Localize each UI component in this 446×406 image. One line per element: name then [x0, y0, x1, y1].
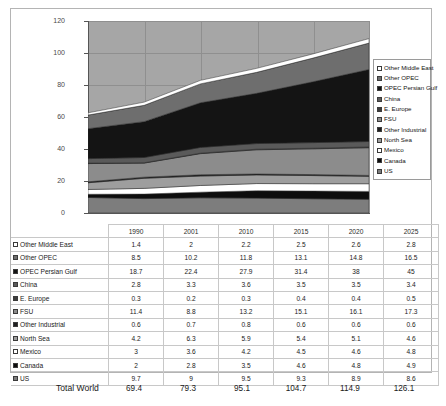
table-cell: 4.8	[384, 345, 439, 358]
table-cell: 0.8	[219, 318, 274, 331]
series-swatch-icon	[13, 282, 18, 287]
legend-item: FSU	[377, 114, 428, 124]
legend-item-label: FSU	[384, 116, 396, 123]
table-cell: 2.6	[329, 238, 384, 251]
table-row-label-cell: North Sea	[11, 332, 109, 345]
table-row-label: Other OPEC	[20, 254, 57, 261]
legend-swatch-icon	[377, 117, 382, 122]
total-world-value: 104.7	[269, 384, 323, 393]
table-row-label-cell: Canada	[11, 358, 109, 371]
legend-item: Other OPEC	[377, 73, 428, 83]
total-world-value: 69.4	[107, 384, 161, 393]
table-cell: 16.1	[329, 305, 384, 318]
table-cell: 4.2	[219, 345, 274, 358]
table-cell: 0.4	[329, 291, 384, 304]
table-cell: 16.5	[384, 251, 439, 264]
table-cell: 18.7	[109, 265, 164, 278]
table-cell: 3.3	[164, 278, 219, 291]
table-row-label: Mexico	[20, 348, 41, 355]
table-cell: 3.6	[219, 278, 274, 291]
table-row-label-cell: Other Middle East	[11, 238, 109, 251]
table-column-header: 2001	[164, 225, 219, 238]
table-cell: 0.5	[384, 291, 439, 304]
table-cell: 4.6	[329, 345, 384, 358]
table-corner-cell	[11, 225, 109, 238]
table-row-label: Other Middle East	[20, 241, 73, 248]
legend-swatch-icon	[377, 97, 382, 102]
table-cell: 13.2	[219, 305, 274, 318]
table-cell: 8.8	[164, 305, 219, 318]
table-column-header: 2010	[219, 225, 274, 238]
table-cell: 4.8	[329, 358, 384, 371]
legend-swatch-icon	[377, 148, 382, 153]
total-world-value: 114.9	[323, 384, 377, 393]
y-axis-tick-label: 40	[25, 145, 65, 152]
table-cell: 0.2	[164, 291, 219, 304]
legend-swatch-icon	[377, 127, 382, 132]
table-cell: 0.4	[274, 291, 329, 304]
legend-swatch-icon	[377, 86, 382, 91]
legend-item-label: Other OPEC	[384, 75, 419, 82]
x-gridline	[369, 21, 370, 213]
table-body: Other Middle East1.422.22.52.62.8Other O…	[11, 238, 439, 385]
table-cell: 14.8	[329, 251, 384, 264]
table-row-label-cell: FSU	[11, 305, 109, 318]
table-column-header: 2015	[274, 225, 329, 238]
y-axis-tick-label: 100	[25, 49, 65, 56]
table-row: OPEC Persian Gulf18.722.427.931.43845	[11, 265, 439, 278]
table-cell: 4.6	[274, 358, 329, 371]
stacked-area-chart: 020406080100120	[11, 9, 431, 224]
table-row: Other OPEC8.510.211.813.114.816.5	[11, 251, 439, 264]
table-cell: 31.4	[274, 265, 329, 278]
table-cell: 4.6	[384, 332, 439, 345]
table-row-label: FSU	[20, 308, 33, 315]
total-world-row: Total World 69.479.395.1104.7114.9126.1	[10, 378, 432, 398]
table-cell: 15.1	[274, 305, 329, 318]
legend-item: Canada	[377, 156, 428, 166]
table-cell: 3.4	[384, 278, 439, 291]
table-column-header: 1990	[109, 225, 164, 238]
table-cell: 3.5	[219, 358, 274, 371]
series-swatch-icon	[13, 309, 18, 314]
legend-item: E. Europe	[377, 104, 428, 114]
area-series-layer	[88, 21, 369, 213]
series-swatch-icon	[13, 255, 18, 260]
legend-item: US	[377, 166, 428, 176]
table-row-label: OPEC Persian Gulf	[20, 268, 77, 275]
series-swatch-icon	[13, 296, 18, 301]
table-cell: 0.3	[219, 291, 274, 304]
table-cell: 11.4	[109, 305, 164, 318]
table-row: FSU11.48.813.215.116.117.3	[11, 305, 439, 318]
legend-item-label: Canada	[384, 158, 406, 165]
table-cell: 22.4	[164, 265, 219, 278]
table-cell: 2.8	[164, 358, 219, 371]
table-row-label-cell: Other Industrial	[11, 318, 109, 331]
table-header-row: 199020012010201520202025	[11, 225, 439, 238]
total-world-label: Total World	[10, 383, 107, 393]
legend-item: Other Industrial	[377, 125, 428, 135]
legend-swatch-icon	[377, 76, 382, 81]
table-column-header: 2025	[384, 225, 439, 238]
table-row-label-cell: China	[11, 278, 109, 291]
table-cell: 6.3	[164, 332, 219, 345]
table-cell: 0.6	[109, 318, 164, 331]
table-row-label: China	[20, 281, 37, 288]
table-row: Mexico33.64.24.54.64.8	[11, 345, 439, 358]
data-table: 199020012010201520202025 Other Middle Ea…	[11, 224, 431, 386]
legend-item: Mexico	[377, 145, 428, 155]
table-cell: 5.4	[274, 332, 329, 345]
series-swatch-icon	[13, 269, 18, 274]
legend-item: Other Middle East	[377, 63, 428, 73]
legend-item-label: China	[384, 96, 400, 103]
table-cell: 1.4	[109, 238, 164, 251]
table-cell: 5.1	[329, 332, 384, 345]
total-world-value: 95.1	[215, 384, 269, 393]
table-cell: 0.6	[329, 318, 384, 331]
table-column-header: 2020	[329, 225, 384, 238]
table-cell: 38	[329, 265, 384, 278]
table-row-label: Canada	[20, 362, 43, 369]
legend-item-label: Other Middle East	[384, 65, 434, 72]
table-cell: 0.6	[274, 318, 329, 331]
table-cell: 0.7	[164, 318, 219, 331]
legend-item-label: Other Industrial	[384, 127, 426, 134]
